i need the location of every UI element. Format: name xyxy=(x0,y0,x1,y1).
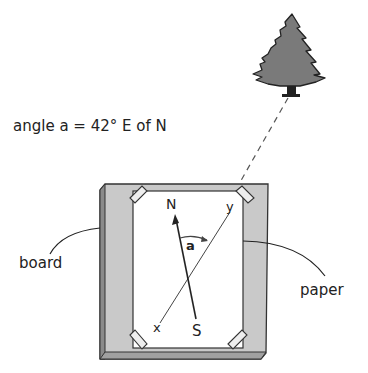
sight-line xyxy=(239,98,288,184)
x-label: x xyxy=(153,320,161,335)
diagram-canvas xyxy=(0,0,368,373)
angle-symbol-label: a xyxy=(186,238,195,253)
y-label: y xyxy=(226,199,234,214)
south-label: S xyxy=(192,322,202,340)
board-leader-line xyxy=(50,228,100,254)
paper-sheet xyxy=(133,191,243,348)
paper-label: paper xyxy=(300,281,344,299)
board-label: board xyxy=(19,254,62,272)
angle-caption: angle a = 42° E of N xyxy=(13,117,167,135)
tree-icon xyxy=(253,14,325,97)
north-label: N xyxy=(166,196,176,212)
